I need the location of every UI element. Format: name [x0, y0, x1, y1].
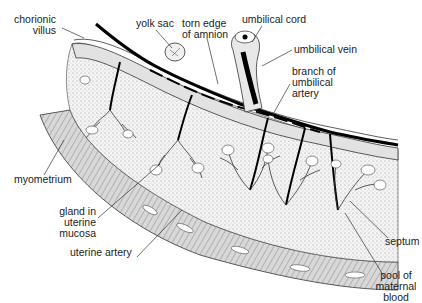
label-umbilical-cord: umbilical cord — [242, 14, 306, 25]
yolk-sac — [165, 43, 185, 61]
placenta-diagram: chorionic villus yolk sac torn edge of a… — [0, 0, 422, 303]
placenta-illustration — [0, 0, 422, 303]
label-chorionic-villus: chorionic villus — [14, 14, 56, 36]
label-septum: septum — [385, 236, 419, 247]
label-torn-edge-of-amnion: torn edge of amnion — [182, 18, 228, 40]
label-uterine-artery: uterine artery — [70, 247, 132, 258]
label-yolk-sac: yolk sac — [136, 18, 174, 29]
label-myometrium: myometrium — [14, 174, 72, 185]
label-branch-of-umbilical-artery: branch of umbilical artery — [292, 66, 336, 99]
label-gland-in-uterine-mucosa: gland in uterine mucosa — [52, 206, 96, 239]
label-umbilical-vein: umbilical vein — [294, 44, 357, 55]
label-pool-of-maternal-blood: pool of maternal blood — [370, 270, 422, 303]
